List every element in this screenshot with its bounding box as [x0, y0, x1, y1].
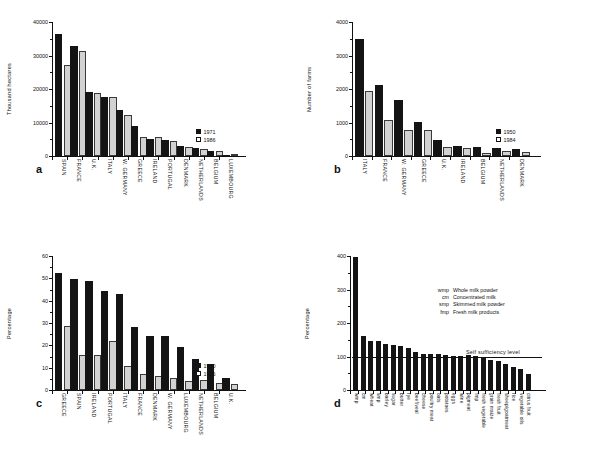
legend-label-c-0: 1950	[204, 363, 216, 369]
bar-d-1-0	[361, 336, 366, 390]
x-tick-d-17	[478, 391, 479, 394]
y-tick-label-a-4: 40000	[12, 19, 48, 25]
x-axis-label-b-3: GREECE	[421, 159, 427, 183]
bar-b-3-1	[424, 130, 433, 156]
y-tick-label-c-0: 0	[12, 387, 48, 393]
abbreviation-row-3: fmpFresh milk products	[430, 308, 505, 315]
x-tick-d-1	[358, 391, 359, 394]
x-axis-label-d-7: rye	[406, 393, 411, 400]
chart-panel-c: 0102030405060PercentageGREECESPAINIRELAN…	[0, 234, 295, 467]
y-tick-label-d-1: 100	[310, 354, 346, 360]
x-tick-d-6	[395, 391, 396, 394]
x-tick-d-15	[463, 391, 464, 394]
bar-b-2-0	[394, 100, 403, 156]
x-axis-label-d-14: wine	[459, 393, 464, 403]
bar-d-7-0	[406, 348, 411, 390]
y-minor-tick-d-3	[348, 273, 351, 274]
x-axis-label-d-2: wheat	[369, 393, 374, 407]
y-tick-c-6	[49, 256, 54, 257]
panel-letter-a: a	[36, 163, 42, 175]
x-axis-line-b	[352, 156, 541, 157]
y-tick-c-4	[49, 301, 54, 302]
y-tick-a-4	[49, 22, 54, 23]
x-axis-label-a-3: ITALY	[107, 159, 113, 174]
y-minor-tick-d-1	[348, 340, 351, 341]
abbreviation-key-3: fmp	[430, 309, 449, 315]
x-tick-d-21	[508, 391, 509, 394]
bar-d-18-0	[488, 360, 493, 390]
y-minor-tick-a-0	[50, 139, 53, 140]
legend-label-b-1: 1984	[504, 137, 516, 143]
bar-b-2-1	[404, 130, 413, 156]
x-tick-c-4	[113, 391, 114, 394]
bar-d-13-0	[451, 356, 456, 391]
x-tick-a-6	[143, 157, 144, 160]
x-axis-label-d-10: poultry meat	[429, 393, 434, 421]
chart-panel-d: 0100200300400Percentagewmpcmwheatsmpbarl…	[296, 234, 591, 467]
x-tick-d-3	[373, 391, 374, 394]
x-axis-label-a-7: PORTUGAL	[167, 159, 173, 190]
y-tick-b-3	[349, 56, 354, 57]
x-axis-label-b-5: IRELAND	[460, 159, 466, 184]
abbreviation-key-1: cm	[430, 294, 449, 300]
x-axis-label-a-5: GREECE	[137, 159, 143, 183]
x-tick-d-7	[403, 391, 404, 394]
x-tick-b-2	[391, 157, 392, 160]
x-tick-c-6	[143, 391, 144, 394]
x-axis-label-b-7: NETHERLANDS	[499, 159, 505, 201]
x-tick-a-8	[174, 157, 175, 160]
legend-item-b-1: 1984	[496, 136, 516, 143]
x-axis-label-c-5: FRANCE	[137, 393, 143, 416]
bar-b-8-1	[522, 152, 531, 156]
x-axis-label-c-0: GREECE	[61, 393, 67, 417]
x-axis-label-b-2: W. GERMANY	[401, 159, 407, 196]
abbreviation-text-1: Concentrated milk	[453, 294, 496, 300]
legend-a: 19711986	[196, 128, 216, 144]
x-axis-label-d-13: eggs	[451, 393, 456, 404]
bar-b-3-0	[414, 122, 423, 157]
x-axis-label-b-1: FRANCE	[382, 159, 388, 182]
y-axis-title-a: Thousand hectares	[6, 32, 12, 146]
x-tick-b-3	[411, 157, 412, 160]
y-tick-a-3	[49, 56, 54, 57]
x-axis-label-d-16: fmp	[474, 393, 479, 401]
y-minor-tick-c-5	[50, 267, 53, 268]
abbreviation-row-1: cmConcentrated milk	[430, 293, 505, 300]
x-axis-label-d-18: grain maize	[489, 393, 494, 419]
y-tick-label-a-2: 20000	[12, 86, 48, 92]
panel-letter-c: c	[36, 397, 42, 409]
x-tick-a-11	[219, 157, 220, 160]
x-tick-b-6	[470, 157, 471, 160]
abbreviation-key-0: wmp	[430, 287, 449, 293]
plot-area-c: 0102030405060PercentageGREECESPAINIRELAN…	[0, 234, 295, 467]
x-axis-line-c	[52, 390, 246, 391]
y-tick-b-1	[349, 123, 354, 124]
legend-swatch-b-1	[496, 137, 501, 142]
abbreviation-row-0: wmpWhole milk powder	[430, 286, 505, 293]
y-minor-tick-c-2	[50, 334, 53, 335]
bar-c-0-0	[55, 273, 62, 390]
x-axis-label-a-2: U.K.	[91, 159, 97, 170]
x-axis-label-a-10: BELGIUM	[213, 159, 219, 184]
bar-d-11-0	[436, 354, 441, 391]
x-tick-d-20	[500, 391, 501, 394]
bar-d-23-0	[526, 374, 531, 390]
y-tick-b-2	[349, 89, 354, 90]
x-axis-label-c-11: U.K.	[228, 393, 234, 404]
y-tick-c-1	[49, 368, 54, 369]
x-axis-label-d-11: oats	[436, 393, 441, 403]
x-tick-a-0	[52, 157, 53, 160]
x-tick-c-1	[67, 391, 68, 394]
bar-c-5-0	[131, 327, 138, 390]
x-axis-label-d-22: vegetable oils	[519, 393, 524, 424]
bar-d-15-0	[466, 355, 471, 390]
bar-d-5-0	[391, 345, 396, 390]
panel-letter-b: b	[334, 163, 341, 175]
bar-a-0-0	[55, 34, 62, 156]
y-tick-label-c-6: 60	[12, 253, 48, 259]
x-tick-c-7	[158, 391, 159, 394]
y-minor-tick-a-3	[50, 39, 53, 40]
x-tick-a-5	[128, 157, 129, 160]
x-tick-a-2	[82, 157, 83, 160]
bar-a-9-0	[192, 148, 199, 156]
